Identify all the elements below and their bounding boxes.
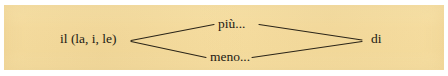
diagram-screenshot: il (la, i, le) più... meno... di (0, 0, 448, 76)
node-label-determiner: il (la, i, le) (60, 32, 117, 46)
connector-left-to-piu (131, 25, 214, 41)
node-label-meno: meno... (210, 50, 250, 64)
connector-meno-to-di (252, 42, 362, 58)
node-label-di: di (371, 32, 382, 46)
connector-piu-to-di (259, 25, 362, 41)
connector-left-to-meno (131, 42, 206, 58)
node-label-piu: più... (218, 17, 245, 31)
